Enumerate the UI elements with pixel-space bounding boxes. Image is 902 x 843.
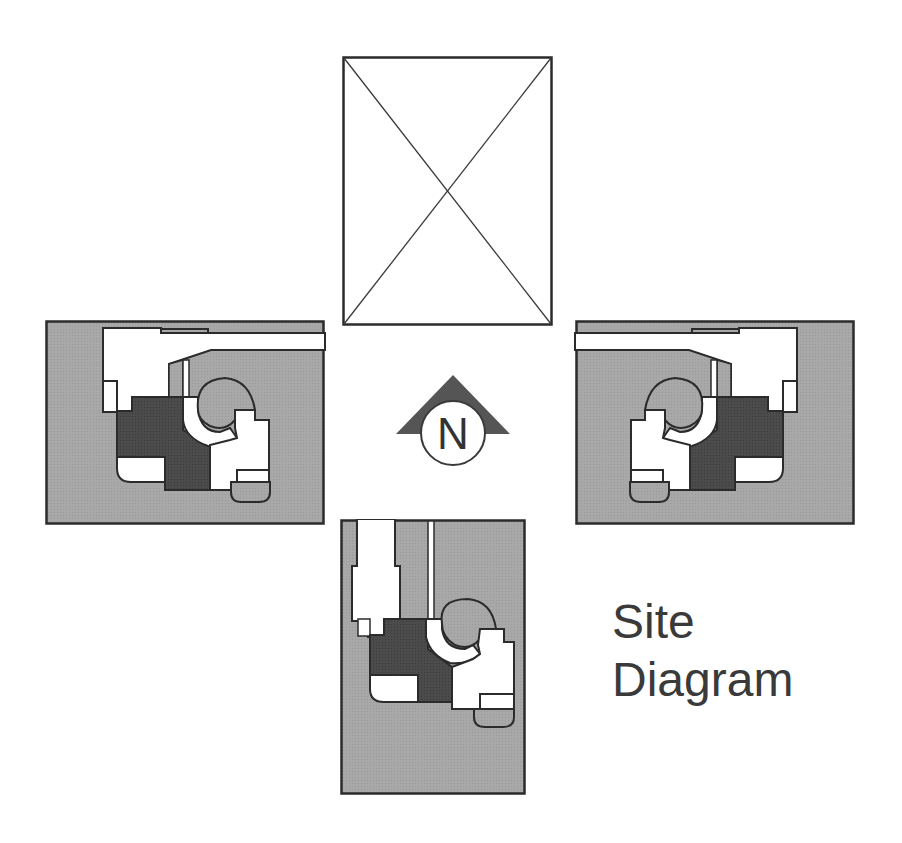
image-placeholder [342,56,553,326]
site-plan-south [340,519,526,795]
site-plan-east [574,320,856,527]
title-line-2: Diagram [612,656,793,704]
title-line-1: Site [612,598,695,646]
diagram-title: Site Diagram [612,598,872,718]
north-label: N [393,412,513,456]
north-arrow: N [393,372,513,472]
placeholder-cross-icon [342,56,553,326]
site-plan-west [45,320,327,527]
